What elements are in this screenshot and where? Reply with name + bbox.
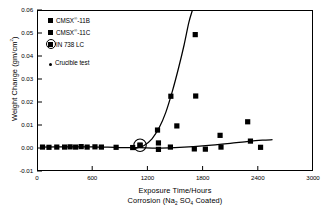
x-axis-title-line2: Corrosion (Na2 SO4 Coated) bbox=[37, 196, 313, 209]
legend-label-cmsx-11b: CMSX®-11B bbox=[56, 16, 90, 24]
legend-item-cmsx-11b: CMSX®-11B bbox=[48, 14, 90, 26]
data-point-marker bbox=[99, 144, 104, 149]
data-point-marker bbox=[54, 144, 59, 149]
circle-highlight-icon bbox=[46, 39, 56, 49]
steep-rise-curve bbox=[135, 10, 193, 149]
legend-label-cmsx-11c: CMSX®-11C bbox=[56, 28, 90, 36]
data-point-marker bbox=[73, 144, 78, 149]
data-point-marker bbox=[85, 144, 90, 149]
data-point-marker bbox=[156, 140, 161, 145]
data-point-marker bbox=[218, 144, 223, 149]
x-axis-tick-label: 3000 bbox=[296, 175, 329, 181]
legend-label-post: -11C bbox=[77, 29, 90, 36]
y-axis-tick-label: 0.06 bbox=[3, 7, 33, 13]
x-axis-tick-label: 1800 bbox=[186, 175, 220, 181]
data-point-marker bbox=[192, 146, 197, 151]
data-point-marker bbox=[168, 144, 173, 149]
y-axis-tick-label: 0.04 bbox=[3, 53, 33, 59]
data-point-marker bbox=[46, 145, 51, 150]
data-point-marker bbox=[174, 123, 179, 128]
data-point-marker bbox=[248, 139, 253, 144]
x-axis-title-line2-post: Coated) bbox=[193, 196, 222, 205]
y-axis-tick-label: 0.01 bbox=[3, 122, 33, 128]
square-marker-icon bbox=[48, 30, 53, 35]
data-point-marker bbox=[193, 93, 198, 98]
x-axis-tick-label: 600 bbox=[75, 175, 109, 181]
figure-container: Weight Change (gm/cm2) Exposure Time/Hou… bbox=[0, 0, 329, 215]
data-point-marker bbox=[193, 32, 198, 37]
data-point-marker bbox=[217, 133, 222, 138]
x-axis-tick-label: 1200 bbox=[130, 175, 164, 181]
data-point-marker bbox=[40, 144, 45, 149]
x-axis-title-line2-pre: Corrosion (Na bbox=[128, 196, 175, 205]
x-axis-tick-label: 2400 bbox=[241, 175, 275, 181]
data-point-marker bbox=[137, 143, 142, 148]
data-point-marker bbox=[155, 127, 160, 132]
data-point-marker bbox=[258, 145, 263, 150]
data-point-marker bbox=[245, 119, 250, 124]
dot-marker-icon bbox=[49, 63, 52, 66]
y-axis-tick-label: 0.03 bbox=[3, 76, 33, 82]
y-axis-title-superscript: 2 bbox=[9, 39, 14, 42]
square-marker-icon bbox=[48, 18, 53, 23]
legend-label-pre: CMSX bbox=[56, 17, 74, 24]
legend-label-pre: CMSX bbox=[56, 29, 74, 36]
legend-item-cmsx-11c: CMSX®-11C bbox=[48, 26, 90, 38]
y-axis-tick-label: -0.01 bbox=[3, 168, 33, 174]
y-axis-tick-label: 0.00 bbox=[3, 145, 33, 151]
data-point-marker bbox=[68, 144, 73, 149]
legend-label-crucible-test: Crucible test bbox=[55, 59, 89, 66]
data-point-marker bbox=[92, 144, 97, 149]
x-axis-tick-label: 0 bbox=[20, 175, 54, 181]
data-point-marker bbox=[156, 147, 161, 152]
x-axis-title-line1: Exposure Time/Hours bbox=[37, 186, 313, 196]
legend-item-in-738-lc: IN 738 LC bbox=[48, 38, 90, 50]
legend-label-in-738-lc: IN 738 LC bbox=[56, 41, 84, 48]
data-point-marker bbox=[114, 145, 119, 150]
legend-label-post: -11B bbox=[77, 17, 90, 24]
y-axis-title-close: ) bbox=[10, 36, 19, 39]
data-point-marker bbox=[203, 147, 208, 152]
x-axis-title-group: Exposure Time/Hours Corrosion (Na2 SO4 C… bbox=[37, 186, 313, 209]
legend: CMSX®-11B CMSX®-11C IN 738 LC Crucible t… bbox=[48, 14, 90, 69]
data-point-marker bbox=[62, 144, 67, 149]
data-point-marker bbox=[79, 144, 84, 149]
legend-item-crucible-test: Crucible test bbox=[48, 50, 90, 69]
x-axis-title-line2-mid: SO bbox=[178, 196, 191, 205]
data-point-marker bbox=[168, 94, 173, 99]
y-axis-tick-label: 0.05 bbox=[3, 30, 33, 36]
y-axis-tick-label: 0.02 bbox=[3, 99, 33, 105]
